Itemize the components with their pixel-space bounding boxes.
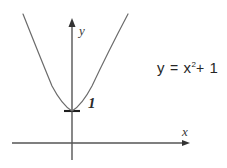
- parabola-figure: y x 1 y = x2+ 1: [0, 0, 227, 168]
- graph-canvas: y x 1: [0, 0, 227, 168]
- equation-constant: 1: [210, 59, 219, 76]
- y-axis-label: y: [77, 23, 85, 38]
- x-axis-label: x: [181, 124, 188, 139]
- y-axis-arrowhead: [69, 18, 76, 27]
- equation-base: x: [183, 59, 191, 76]
- equation-annotation: y = x2+ 1: [157, 60, 219, 75]
- parabola-curve: [23, 14, 128, 111]
- y-intercept-label: 1: [88, 95, 96, 111]
- equation-lhs: y: [157, 59, 165, 76]
- x-axis-arrowhead: [182, 140, 190, 146]
- equation-equals-sign: =: [170, 60, 179, 76]
- equation-plus-sign: +: [196, 60, 205, 76]
